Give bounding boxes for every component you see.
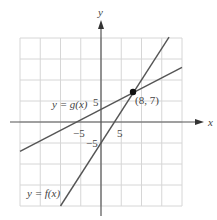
x-tick-label-neg5: −5 — [73, 127, 85, 139]
f-line-label: y = f(x) — [26, 187, 60, 200]
y-axis-label: y — [97, 6, 103, 18]
x-tick-label-5: 5 — [117, 127, 123, 139]
function-graph: x y −5 5 −5 5 (8, 7) y = g(x) y = f(x) — [0, 0, 217, 220]
g-line-label: y = g(x) — [51, 98, 88, 111]
y-axis-arrow-icon — [98, 20, 104, 29]
y-tick-label-neg5: −5 — [86, 137, 98, 149]
y-tick-label-5: 5 — [93, 96, 99, 108]
x-axis-arrow-icon — [195, 119, 204, 125]
intersection-label: (8, 7) — [135, 94, 159, 107]
x-axis-label: x — [207, 116, 213, 128]
